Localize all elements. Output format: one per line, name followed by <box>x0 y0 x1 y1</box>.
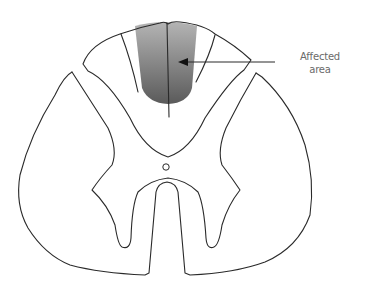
label-line-1: Affected <box>296 50 344 63</box>
spinal-cord-diagram <box>0 0 366 287</box>
fasciculus-left-border <box>121 34 138 92</box>
central-canal <box>163 164 169 170</box>
label-line-2: area <box>296 63 344 76</box>
fasciculus-right-border <box>196 35 215 82</box>
affected-area-label: Affected area <box>296 50 344 76</box>
